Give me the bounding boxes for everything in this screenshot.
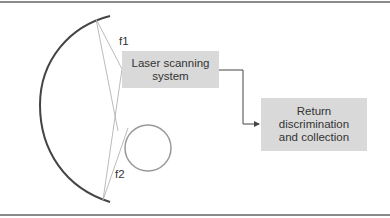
- focus-label-f2: f2: [115, 168, 125, 180]
- laser-scanning-system-box: Laser scanning system: [122, 51, 219, 88]
- focus-label-f1: f1: [119, 35, 129, 47]
- laser-scanning-system-label: Laser scanning system: [131, 57, 211, 83]
- ray-bottom-to-target: [103, 128, 128, 200]
- return-discrimination-box: Return discrimination and collection: [261, 98, 367, 151]
- ray-top-to-target: [96, 19, 118, 131]
- flow-arrow: [219, 70, 259, 124]
- ellipsoidal-mirror: [40, 16, 110, 202]
- return-discrimination-label: Return discrimination and collection: [269, 105, 359, 144]
- ray-bottom-to-f1: [103, 69, 122, 200]
- target-sphere: [125, 125, 171, 171]
